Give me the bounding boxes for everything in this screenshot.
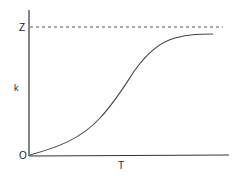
x-axis-label: T — [118, 161, 124, 171]
x-axis — [29, 155, 229, 156]
y-axis-label: k — [14, 84, 19, 93]
sigmoid-curve — [30, 34, 213, 155]
chart-canvas — [0, 0, 244, 176]
origin-label: O — [19, 151, 27, 161]
asymptote-label: Z — [19, 23, 25, 33]
